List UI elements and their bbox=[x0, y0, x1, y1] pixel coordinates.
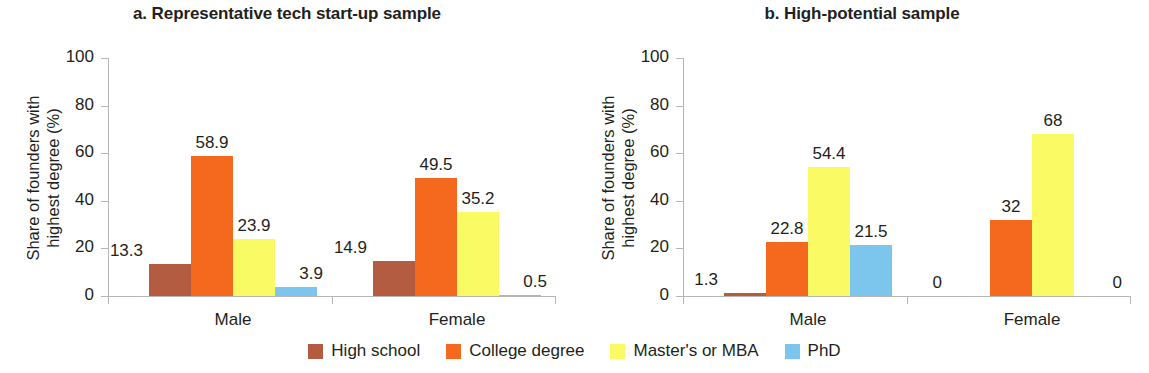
bar-value-a-female-college: 49.5 bbox=[419, 155, 452, 175]
panel-a-title: a. Representative tech start-up sample bbox=[0, 4, 574, 24]
panel-a-ytick-label-80: 80 bbox=[75, 95, 94, 115]
panel-b-plot-area: 100 80 60 40 20 0 1.3 22.8 54.4 21.5 bbox=[683, 58, 1131, 296]
legend-label-high-school: High school bbox=[331, 341, 420, 361]
bar-value-b-female-college: 32 bbox=[1002, 197, 1021, 217]
figure-container: a. Representative tech start-up sample S… bbox=[0, 0, 1149, 373]
panel-b-xtick-mid bbox=[907, 296, 908, 304]
panel-a-xtick-left bbox=[108, 296, 109, 304]
bar-a-female-college: 49.5 bbox=[415, 178, 457, 296]
panel-b-ytick-label-100: 100 bbox=[641, 47, 669, 67]
panel-a-ytick-80: 80 bbox=[101, 106, 108, 107]
legend-item-college-degree: College degree bbox=[446, 341, 584, 361]
panel-a-ytick-label-40: 40 bbox=[75, 190, 94, 210]
bar-value-b-male-masters: 54.4 bbox=[812, 144, 845, 164]
legend-item-high-school: High school bbox=[308, 341, 420, 361]
panel-a-ytick-60: 60 bbox=[101, 153, 108, 154]
bar-a-male-high-school: 13.3 bbox=[149, 264, 191, 296]
panel-a-plot-area: 100 80 60 40 20 0 13.3 58.9 23.9 3.9 bbox=[108, 58, 556, 296]
bar-a-female-high-school: 14.9 bbox=[373, 261, 415, 297]
bar-b-male-phd: 21.5 bbox=[850, 245, 892, 296]
bar-value-b-female-phd: 0 bbox=[1113, 273, 1122, 293]
panel-a-xtick-right bbox=[555, 296, 556, 304]
panel-b-ytick-label-80: 80 bbox=[650, 95, 669, 115]
bar-value-b-male-phd: 21.5 bbox=[854, 222, 887, 242]
panel-b-ytick-40: 40 bbox=[676, 201, 683, 202]
bar-a-male-college: 58.9 bbox=[191, 156, 233, 296]
panel-b-y-axis-label: Share of founders with highest degree (%… bbox=[598, 53, 638, 303]
panel-b-group-label-female: Female bbox=[948, 310, 1116, 330]
panel-a-group-label-female: Female bbox=[373, 310, 541, 330]
legend-swatch-masters-or-mba bbox=[610, 344, 625, 359]
bar-a-male-phd: 3.9 bbox=[275, 287, 317, 296]
panel-a: a. Representative tech start-up sample S… bbox=[0, 0, 574, 335]
bar-value-a-female-masters: 35.2 bbox=[461, 189, 494, 209]
bar-value-b-male-high-school: 1.3 bbox=[694, 270, 718, 290]
bar-b-female-masters: 68 bbox=[1032, 134, 1074, 296]
bar-a-male-masters: 23.9 bbox=[233, 239, 275, 296]
legend-swatch-college-degree bbox=[446, 344, 461, 359]
panel-a-ytick-label-100: 100 bbox=[66, 47, 94, 67]
legend-label-phd: PhD bbox=[808, 341, 841, 361]
panel-b-ytick-60: 60 bbox=[676, 153, 683, 154]
panel-b-title: b. High-potential sample bbox=[575, 4, 1149, 24]
panel-a-y-axis-label-line2: highest degree (%) bbox=[43, 53, 63, 303]
panel-b-y-axis-line bbox=[683, 58, 684, 296]
panel-b-ytick-label-0: 0 bbox=[660, 285, 669, 305]
panel-a-ytick-100: 100 bbox=[101, 58, 108, 59]
bar-value-a-female-high-school: 14.9 bbox=[334, 238, 367, 258]
legend-label-college-degree: College degree bbox=[469, 341, 584, 361]
panel-b-group-label-male: Male bbox=[724, 310, 892, 330]
legend-label-masters-or-mba: Master's or MBA bbox=[633, 341, 758, 361]
panel-b-ytick-80: 80 bbox=[676, 106, 683, 107]
bar-value-b-male-college: 22.8 bbox=[770, 219, 803, 239]
bar-b-male-high-school: 1.3 bbox=[724, 293, 766, 296]
panel-a-group-label-male: Male bbox=[149, 310, 317, 330]
bar-value-b-female-masters: 68 bbox=[1044, 111, 1063, 131]
panel-b-ytick-label-60: 60 bbox=[650, 142, 669, 162]
legend-item-phd: PhD bbox=[785, 341, 841, 361]
legend-swatch-phd bbox=[785, 344, 800, 359]
bar-a-female-masters: 35.2 bbox=[457, 212, 499, 296]
bar-value-a-male-masters: 23.9 bbox=[237, 216, 270, 236]
panel-a-ytick-label-20: 20 bbox=[75, 237, 94, 257]
panel-b-y-axis-label-line1: Share of founders with bbox=[598, 53, 618, 303]
panel-a-ytick-label-0: 0 bbox=[85, 285, 94, 305]
panel-a-xtick-mid bbox=[332, 296, 333, 304]
bar-b-male-college: 22.8 bbox=[766, 242, 808, 296]
panel-b-ytick-label-40: 40 bbox=[650, 190, 669, 210]
panel-a-y-axis-line bbox=[108, 58, 109, 296]
bar-a-female-phd: 0.5 bbox=[499, 295, 541, 296]
panel-a-ytick-20: 20 bbox=[101, 248, 108, 249]
panel-a-ytick-label-60: 60 bbox=[75, 142, 94, 162]
panel-b-ytick-100: 100 bbox=[676, 58, 683, 59]
legend: High school College degree Master's or M… bbox=[0, 341, 1149, 361]
panel-a-y-axis-label-line1: Share of founders with bbox=[23, 53, 43, 303]
panel-b-y-axis-label-line2: highest degree (%) bbox=[618, 53, 638, 303]
panel-b-xtick-left bbox=[683, 296, 684, 304]
bar-value-b-female-high-school: 0 bbox=[933, 273, 942, 293]
bar-b-female-college: 32 bbox=[990, 220, 1032, 296]
panel-b-ytick-label-20: 20 bbox=[650, 237, 669, 257]
panel-b-xtick-right bbox=[1130, 296, 1131, 304]
legend-item-masters-or-mba: Master's or MBA bbox=[610, 341, 758, 361]
panel-b-ytick-0: 0 bbox=[676, 296, 683, 297]
bar-value-a-male-college: 58.9 bbox=[195, 133, 228, 153]
bar-value-a-male-high-school: 13.3 bbox=[110, 241, 143, 261]
bar-value-a-male-phd: 3.9 bbox=[299, 264, 323, 284]
legend-swatch-high-school bbox=[308, 344, 323, 359]
panel-a-ytick-0: 0 bbox=[101, 296, 108, 297]
panel-b: b. High-potential sample Share of founde… bbox=[575, 0, 1149, 335]
bar-value-a-female-phd: 0.5 bbox=[523, 272, 547, 292]
bar-b-male-masters: 54.4 bbox=[808, 167, 850, 297]
panel-a-ytick-40: 40 bbox=[101, 201, 108, 202]
panel-a-y-axis-label: Share of founders with highest degree (%… bbox=[23, 53, 63, 303]
panel-b-ytick-20: 20 bbox=[676, 248, 683, 249]
